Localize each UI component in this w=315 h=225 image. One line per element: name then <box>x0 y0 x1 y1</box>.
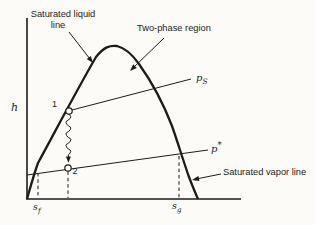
isobar-ps-line <box>72 79 191 110</box>
diagram-canvas: Saturated liquid line Two-phase region S… <box>0 0 315 225</box>
sg-subscript: g <box>177 206 182 214</box>
isobar-ps-label: pS <box>196 72 208 86</box>
hs-saturation-dome-figure: Saturated liquid line Two-phase region S… <box>0 0 315 225</box>
isobar-pstar-label: p* <box>211 140 222 154</box>
saturation-dome-curve <box>27 46 198 199</box>
state-point-1 <box>66 108 72 114</box>
saturated-liquid-label-line2: line <box>51 20 65 30</box>
saturated-liquid-arrowhead-icon <box>87 56 93 63</box>
isobar-ps-subscript: S <box>202 77 207 86</box>
sf-tick-label: sf <box>33 201 42 215</box>
point-1-label: 1 <box>52 99 57 109</box>
sf-subscript: f <box>37 207 42 215</box>
process-wavy-line <box>66 114 71 157</box>
saturated-vapor-arrowhead-icon <box>192 176 199 181</box>
isobar-pstar-line <box>27 150 208 175</box>
saturated-liquid-arrow <box>69 32 90 59</box>
saturated-liquid-label-line1: Saturated liquid <box>31 9 96 19</box>
point-2-label: 2 <box>73 166 78 176</box>
process-arrowhead-icon <box>66 157 71 163</box>
saturated-vapor-arrow <box>196 174 221 179</box>
two-phase-arrow <box>133 38 164 68</box>
two-phase-region-label: Two-phase region <box>137 23 211 33</box>
sg-tick-label: sg <box>172 200 182 214</box>
state-point-2 <box>65 165 71 171</box>
saturated-vapor-line-label: Saturated vapor line <box>223 167 306 177</box>
isobar-pstar-superscript: * <box>217 140 222 150</box>
enthalpy-axis-label: h <box>11 101 18 114</box>
